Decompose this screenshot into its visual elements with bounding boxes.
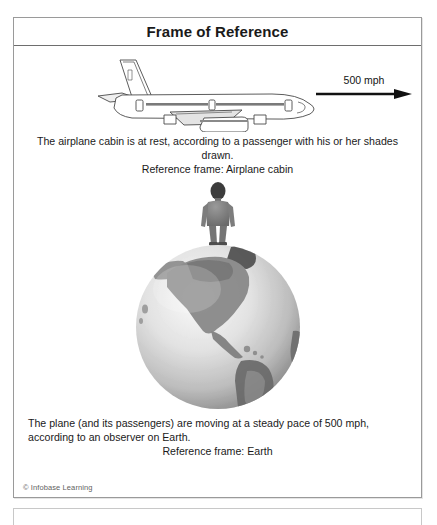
figure-body: 500 mph The airplane cabin is at rest, a… bbox=[14, 46, 421, 497]
airplane-reference-frame: Reference frame: Airplane cabin bbox=[28, 162, 407, 177]
airplane-scene: 500 mph bbox=[14, 46, 421, 134]
earth-reference-frame: Reference frame: Earth bbox=[28, 444, 407, 459]
airplane-caption-block: The airplane cabin is at rest, according… bbox=[14, 134, 421, 177]
page-title: Frame of Reference bbox=[147, 23, 289, 40]
earth-scene bbox=[14, 181, 421, 416]
earth-caption: The plane (and its passengers) are movin… bbox=[28, 416, 407, 444]
speed-label: 500 mph bbox=[314, 74, 414, 86]
airplane-icon bbox=[92, 52, 324, 132]
right-arrow-icon bbox=[314, 88, 414, 102]
airplane-caption: The airplane cabin is at rest, according… bbox=[28, 134, 407, 162]
speed-indicator: 500 mph bbox=[314, 74, 414, 102]
earth-caption-block: The plane (and its passengers) are movin… bbox=[14, 416, 421, 459]
figure-panel: Frame of Reference bbox=[13, 17, 422, 498]
standing-person-icon bbox=[201, 182, 235, 246]
figure-title-bar: Frame of Reference bbox=[14, 18, 421, 46]
earth-globe-icon bbox=[113, 181, 323, 413]
clipped-caption-text bbox=[24, 514, 27, 525]
copyright-notice: © Infobase Learning bbox=[23, 483, 93, 492]
clipped-caption-panel bbox=[13, 508, 422, 525]
